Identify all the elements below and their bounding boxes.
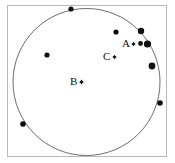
marker-b (79, 80, 84, 85)
label-a: A (122, 38, 130, 49)
label-b: B (70, 76, 77, 87)
dot-cluster-small (138, 41, 143, 46)
label-c: C (103, 51, 110, 62)
figure-frame-border (8, 6, 167, 157)
dot-top (68, 6, 73, 11)
data-dots-group (20, 6, 163, 126)
dot-right (149, 63, 156, 70)
marker-c (112, 55, 116, 59)
dot-cluster-large (144, 40, 151, 47)
dot-upper-right-2 (138, 28, 144, 34)
dot-upper-right-1 (113, 29, 118, 34)
dot-left (44, 52, 49, 57)
dot-right-edge (157, 100, 163, 106)
circle-scatter-plot (0, 0, 175, 163)
figure-container: ABC (0, 0, 175, 163)
marker-a (131, 42, 135, 46)
dot-lower-left (20, 121, 26, 127)
